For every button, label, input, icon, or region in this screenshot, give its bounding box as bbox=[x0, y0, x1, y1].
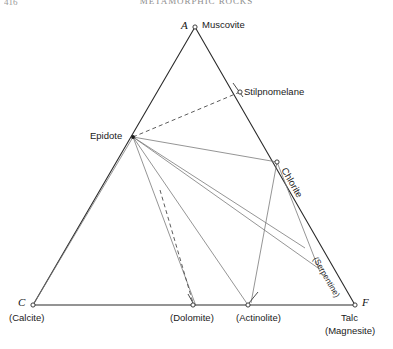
triangle-outline bbox=[33, 27, 355, 305]
dashed-lines bbox=[133, 92, 240, 303]
apex-label-a: A bbox=[181, 20, 188, 31]
apex-label-f: F bbox=[362, 297, 369, 308]
tie-epidote-calcite bbox=[33, 137, 133, 305]
triangle-edge-ac bbox=[33, 27, 195, 305]
label-magnesite: (Magnesite) bbox=[325, 326, 375, 336]
label-calcite: (Calcite) bbox=[9, 313, 44, 323]
tie-epidote-actinolite bbox=[133, 137, 248, 305]
node-marker-dolomite bbox=[191, 303, 195, 307]
tie-epidote-serpentine bbox=[133, 137, 318, 268]
dashed-epidote-stilpnomelane bbox=[133, 92, 240, 137]
figure-page: 416 METAMORPHIC ROCKS bbox=[0, 0, 393, 349]
node-marker-actinolite bbox=[246, 303, 250, 307]
apex-label-c: C bbox=[18, 297, 25, 308]
node-marker-muscovite bbox=[193, 25, 197, 29]
tie-epidote-talc-edge bbox=[133, 137, 305, 248]
node-marker-chlorite bbox=[275, 160, 279, 164]
label-muscovite: Muscovite bbox=[202, 20, 245, 30]
tie-epidote-chlorite bbox=[133, 137, 277, 162]
node-marker-calcite bbox=[31, 303, 35, 307]
label-stilpnomelane: Stilpnomelane bbox=[244, 87, 304, 97]
node-marker-epidote bbox=[131, 135, 135, 139]
node-marker-talc bbox=[353, 303, 357, 307]
label-talc: Talc bbox=[341, 313, 358, 323]
label-dolomite: (Dolomite) bbox=[170, 313, 214, 323]
tie-chlorite-actinolite bbox=[251, 162, 277, 303]
dashed-dolomite-vertical bbox=[160, 190, 193, 303]
leader-ticks bbox=[188, 83, 258, 303]
tick-actinolite bbox=[249, 292, 258, 303]
label-actinolite: (Actinolite) bbox=[236, 313, 281, 323]
node-markers bbox=[31, 25, 357, 307]
node-marker-stilpnomelane bbox=[238, 90, 242, 94]
label-epidote: Epidote bbox=[90, 131, 122, 141]
